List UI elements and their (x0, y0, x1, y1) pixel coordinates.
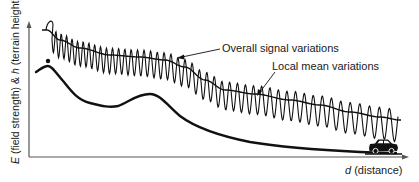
y-axis-arrow-icon (27, 21, 32, 28)
propagation-diagram: Overall signal variations Local mean var… (0, 0, 419, 182)
x-axis-arrow-icon (402, 155, 409, 160)
transmitter-dot-icon (46, 59, 50, 63)
overall-signal-label: Overall signal variations (222, 42, 339, 54)
axes (27, 21, 410, 160)
local-mean-label: Local mean variations (272, 60, 380, 72)
x-axis-label: d (distance) (345, 164, 402, 176)
overall-signal-curve (46, 21, 398, 141)
y-axis-label: E (field strength) & h (terrain height) (9, 0, 21, 164)
